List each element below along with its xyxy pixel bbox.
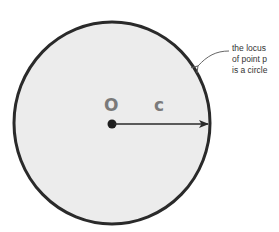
- center-label-o: O: [104, 95, 118, 115]
- locus-diagram: O c: [0, 0, 279, 232]
- locus-annotation: the locus of point p is a circle: [232, 43, 267, 76]
- annotation-line-1: the locus: [232, 43, 267, 54]
- annotation-line-3: is a circle: [232, 65, 267, 76]
- annotation-line-2: of point p: [232, 54, 267, 65]
- radius-label-c: c: [154, 95, 164, 115]
- annotation-pointer-arrow: [198, 51, 229, 66]
